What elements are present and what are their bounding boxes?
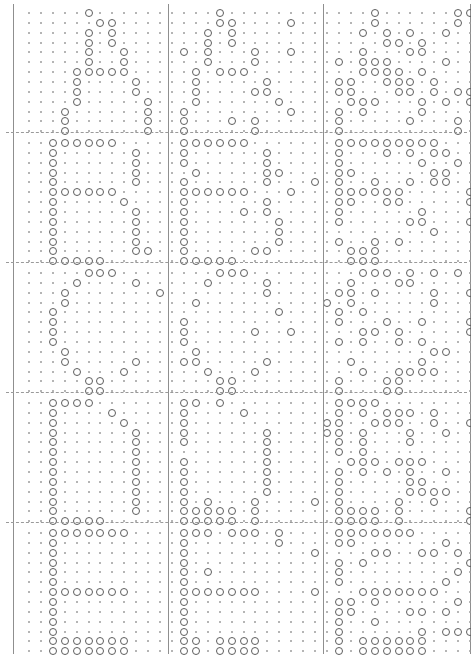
dot-off [374,571,376,573]
dot-off [421,601,423,603]
dot-off [398,181,400,183]
dot-on [359,429,367,437]
dot-off [290,321,292,323]
dot-off [111,510,113,512]
dot-off [302,501,304,503]
dot-off [219,91,221,93]
dot-on [383,419,391,427]
dot-off [135,631,137,633]
dot-off [243,32,245,34]
dot-off [290,611,292,613]
dot-on [204,507,212,515]
dot-off [76,621,78,623]
dot-on [73,647,81,655]
dot-matrix-grid [0,0,471,658]
dot-off [278,120,280,122]
dot-off [290,552,292,554]
dot-off [111,611,113,613]
dot-off [409,451,411,453]
letter-row-c [0,262,471,392]
dot-off [409,581,411,583]
dot-on [263,358,271,366]
dot-on [335,78,343,86]
dot-off [123,91,125,93]
dot-on [347,169,355,177]
dot-off [147,650,149,652]
dot-off [40,432,42,434]
dot-off [457,221,459,223]
dot-off [195,481,197,483]
dot-off [207,562,209,564]
dot-off [147,461,149,463]
dot-off [350,581,352,583]
dot-off [111,601,113,603]
dot-off [421,250,423,252]
dot-off [457,201,459,203]
dot-off [231,341,233,343]
dot-off [76,311,78,313]
dot-off [362,621,364,623]
dot-on [192,507,200,515]
dot-off [243,461,245,463]
dot-on [466,318,471,326]
dot-off [76,601,78,603]
dot-off [195,581,197,583]
dot-off [457,302,459,304]
dot-off [445,510,447,512]
dot-on [383,139,391,147]
dot-off [123,402,125,404]
dot-off [64,91,66,93]
dot-off [266,581,268,583]
dot-off [254,380,256,382]
dot-off [290,302,292,304]
dot-off [290,250,292,252]
dot-off [350,650,352,652]
dot-off [362,12,364,14]
dot-off [254,22,256,24]
dot-off [195,601,197,603]
dot-off [421,402,423,404]
dot-on [347,78,355,86]
dot-off [290,601,292,603]
dot-on [335,468,343,476]
dot-off [362,611,364,613]
dot-off [433,380,435,382]
dot-off [99,501,101,503]
dot-off [219,221,221,223]
dot-off [350,12,352,14]
dot-off [350,341,352,343]
dot-off [207,461,209,463]
dot-off [266,532,268,534]
dot-off [278,272,280,274]
dot-off [207,272,209,274]
dot-off [421,510,423,512]
dot-off [76,12,78,14]
dot-off [64,601,66,603]
dot-off [147,552,149,554]
dot-off [362,552,364,554]
dot-off [362,292,364,294]
dot-on [430,269,438,277]
dot-on [61,637,69,645]
dot-on [180,568,188,576]
dot-off [40,22,42,24]
dot-on [49,438,57,446]
dot-off [64,250,66,252]
dot-off [207,241,209,243]
dot-off [266,111,268,113]
dot-off [290,441,292,443]
dot-off [386,91,388,93]
dot-on [406,117,414,125]
dot-on [228,588,236,596]
dot-off [243,120,245,122]
dot-off [99,611,101,613]
dot-off [350,380,352,382]
dot-on [371,419,379,427]
dot-on [347,289,355,297]
dot-off [421,91,423,93]
dot-off [243,321,245,323]
dot-off [99,152,101,154]
dot-off [302,371,304,373]
dot-on [418,588,426,596]
dot-off [278,631,280,633]
